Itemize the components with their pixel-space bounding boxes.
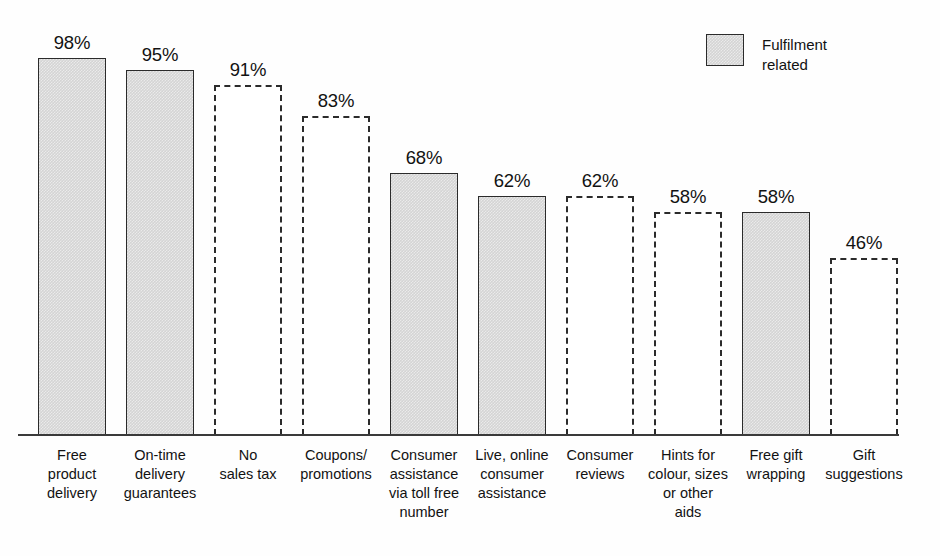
bar-10 <box>830 258 898 435</box>
bar-value-label-4: 83% <box>288 90 384 112</box>
category-label-8: Hints for colour, sizes or other aids <box>641 446 735 522</box>
bar-chart-plot-area: 98%95%91%83%68%62%62%58%58%46% Free prod… <box>0 0 940 556</box>
category-label-1: Free product delivery <box>25 446 119 503</box>
bar-8 <box>654 212 722 435</box>
category-label-6: Live, online consumer assistance <box>465 446 559 503</box>
bar-6 <box>478 196 546 435</box>
bar-1 <box>38 58 106 435</box>
bar-value-label-7: 62% <box>552 170 648 192</box>
bar-5 <box>390 173 458 435</box>
bar-2 <box>126 70 194 435</box>
bar-value-label-5: 68% <box>376 147 472 169</box>
category-label-4: Coupons/ promotions <box>289 446 383 484</box>
legend-label-fulfilment-related: Fulfilment related <box>762 34 827 75</box>
category-label-10: Gift suggestions <box>817 446 911 484</box>
chart-page: 98%95%91%83%68%62%62%58%58%46% Free prod… <box>0 0 940 556</box>
chart-legend: Fulfilment related <box>706 34 827 75</box>
category-label-5: Consumer assistance via toll free number <box>377 446 471 522</box>
bar-value-label-10: 46% <box>816 232 912 254</box>
bar-value-label-9: 58% <box>728 186 824 208</box>
bar-4 <box>302 116 370 435</box>
bar-9 <box>742 212 810 435</box>
legend-swatch-fulfilment-related <box>706 34 744 66</box>
bar-value-label-8: 58% <box>640 186 736 208</box>
bar-value-label-3: 91% <box>200 59 296 81</box>
category-label-3: No sales tax <box>201 446 295 484</box>
bar-value-label-6: 62% <box>464 170 560 192</box>
category-label-9: Free gift wrapping <box>729 446 823 484</box>
x-axis-line <box>18 434 899 436</box>
bar-value-label-1: 98% <box>24 32 120 54</box>
category-label-7: Consumer reviews <box>553 446 647 484</box>
bar-3 <box>214 85 282 435</box>
bar-7 <box>566 196 634 435</box>
category-label-2: On-time delivery guarantees <box>113 446 207 503</box>
bar-value-label-2: 95% <box>112 44 208 66</box>
